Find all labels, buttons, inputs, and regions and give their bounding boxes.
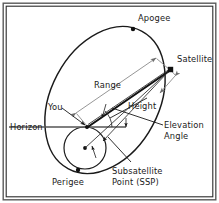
ssp-leader bbox=[108, 137, 131, 162]
figure-outer-border bbox=[3, 3, 216, 200]
orbit-ellipse bbox=[21, 6, 190, 194]
apogee-point bbox=[131, 27, 135, 31]
label-ssp-line1: Subsatellite bbox=[112, 166, 163, 176]
label-apogee: Apogee bbox=[138, 13, 170, 23]
label-range: Range bbox=[94, 80, 121, 90]
range-line bbox=[87, 69, 171, 128]
you-leader bbox=[62, 108, 85, 125]
ssp-marker-arrow bbox=[92, 146, 96, 158]
label-elevation-angle-line2: Angle bbox=[164, 131, 188, 141]
label-ssp-line2: Point (SSP) bbox=[112, 177, 159, 187]
range-dimension bbox=[76, 58, 170, 126]
label-horizon: Horizon bbox=[10, 122, 43, 132]
satellite-orbit-diagram: Apogee Satellite Range You Horizon Heigh… bbox=[0, 0, 219, 203]
diagram-canvas: Apogee Satellite Range You Horizon Heigh… bbox=[0, 0, 219, 203]
observer-point bbox=[85, 125, 89, 129]
label-height: Height bbox=[128, 101, 157, 111]
label-perigee: Perigee bbox=[52, 177, 84, 187]
label-satellite: Satellite bbox=[177, 54, 212, 64]
perigee-point bbox=[76, 168, 80, 172]
label-you: You bbox=[47, 102, 63, 112]
label-elevation-angle-line1: Elevation bbox=[164, 120, 204, 130]
satellite-point bbox=[168, 67, 173, 72]
